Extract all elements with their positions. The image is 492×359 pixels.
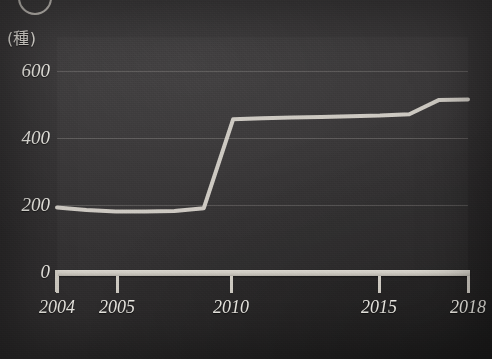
x-tick-2004 (56, 276, 59, 293)
chart-screenshot: (種) 0200400600 20042005201020152018 (0, 0, 492, 359)
y-axis-unit-label: (種) (7, 25, 36, 49)
series-line-chart (57, 37, 468, 272)
x-tick-2018 (467, 276, 470, 293)
circled-number-marker-icon (18, 0, 52, 15)
x-tick-2010 (230, 276, 233, 293)
x-tick-2005 (116, 276, 119, 293)
x-tick-label-2010: 2010 (213, 297, 249, 318)
x-tick-label-2018: 2018 (450, 297, 486, 318)
series-polyline (57, 99, 468, 211)
y-tick-label-0: 0 (41, 261, 51, 283)
y-tick-label-400: 400 (22, 127, 51, 149)
x-tick-label-2015: 2015 (361, 297, 397, 318)
y-tick-label-600: 600 (22, 60, 51, 82)
x-tick-2015 (378, 276, 381, 293)
y-tick-label-200: 200 (22, 194, 51, 216)
x-tick-label-2005: 2005 (99, 297, 135, 318)
x-tick-label-2004: 2004 (39, 297, 75, 318)
plot-area (57, 37, 468, 272)
